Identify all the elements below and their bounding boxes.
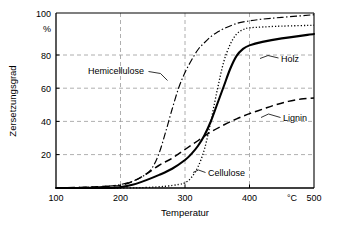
xtick-label-500: 500 (306, 193, 321, 203)
xtick-label-300: 300 (177, 193, 192, 203)
ytick-label-20: 20 (41, 150, 51, 160)
ytick-label-100: 100 (36, 9, 51, 19)
x-axis-title: Temperatur (161, 207, 209, 218)
ytick-label-80: 80 (41, 51, 51, 61)
y-unit-label: % (43, 24, 51, 34)
decomposition-chart: 100 % 80 60 40 20 100 200 300 400 °C 500… (0, 0, 339, 229)
ytick-label-40: 40 (41, 117, 51, 127)
xtick-label-200: 200 (113, 193, 128, 203)
xtick-label-400: 400 (242, 193, 257, 203)
y-axis-title: Zersetzungsgrad (7, 65, 18, 136)
series-label-holz: Holz (281, 54, 300, 64)
series-label-lignin: Lignin (283, 113, 307, 123)
xtick-label-100: 100 (48, 193, 63, 203)
series-label-cellulose: Cellulose (208, 168, 245, 178)
series-label-hemicellulose: Hemicellulose (88, 66, 144, 76)
chart-svg: 100 % 80 60 40 20 100 200 300 400 °C 500… (0, 0, 339, 229)
ytick-label-60: 60 (41, 84, 51, 94)
x-unit-label: °C (287, 193, 298, 203)
